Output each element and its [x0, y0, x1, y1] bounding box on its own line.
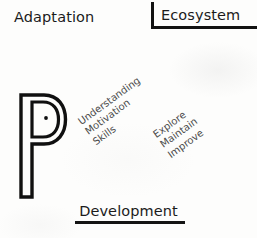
- bracket-vertical-line: [151, 2, 154, 29]
- heading-adaptation: Adaptation: [14, 9, 94, 25]
- bracket-horizontal-line: [151, 26, 257, 29]
- heading-ecosystem: Ecosystem: [161, 7, 240, 23]
- annotation-explore-maintain-improve: Explore Maintain Improve: [151, 106, 208, 161]
- heading-development: Development: [0, 203, 257, 219]
- development-underline: [75, 221, 185, 224]
- annotation-understanding-motivation-skills: Understanding Motivation Skills: [76, 75, 157, 148]
- ecosystem-group: Ecosystem: [150, 0, 257, 32]
- letter-p-glyph-icon: [18, 92, 68, 200]
- diagram-canvas: Adaptation Ecosystem Understanding Motiv…: [0, 0, 257, 238]
